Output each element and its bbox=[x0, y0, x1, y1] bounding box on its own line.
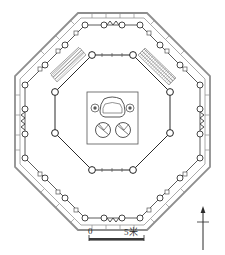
column bbox=[89, 167, 96, 174]
column bbox=[137, 215, 143, 221]
column bbox=[62, 42, 68, 48]
north-arrow-head bbox=[201, 206, 206, 213]
column bbox=[42, 175, 48, 181]
column bbox=[130, 52, 137, 59]
column bbox=[197, 82, 203, 88]
column bbox=[52, 89, 59, 96]
column bbox=[177, 175, 183, 181]
column bbox=[119, 215, 125, 221]
pier bbox=[183, 172, 187, 176]
column bbox=[89, 52, 96, 59]
pier bbox=[74, 31, 78, 35]
pier bbox=[38, 67, 42, 71]
column bbox=[42, 62, 48, 68]
column bbox=[167, 89, 174, 96]
west-railing bbox=[21, 112, 25, 130]
pier bbox=[147, 208, 151, 212]
north-arrow bbox=[197, 206, 209, 250]
pier bbox=[183, 67, 187, 71]
column bbox=[22, 106, 28, 112]
small-column-left-inner bbox=[93, 106, 96, 109]
central-platform bbox=[87, 92, 138, 144]
floor-plan-figure: 0 5米 bbox=[0, 0, 225, 255]
column bbox=[157, 195, 163, 201]
column bbox=[197, 106, 203, 112]
column bbox=[52, 130, 59, 137]
northwest-stair bbox=[50, 47, 86, 82]
floor-plan-drawing bbox=[0, 0, 225, 255]
scale-bar-zero-label: 0 bbox=[88, 226, 93, 236]
column bbox=[119, 22, 125, 28]
column bbox=[137, 22, 143, 28]
east-railing bbox=[200, 112, 204, 130]
pier bbox=[56, 49, 60, 53]
column bbox=[157, 42, 163, 48]
pier bbox=[74, 208, 78, 212]
scale-bar-max-label: 5米 bbox=[124, 225, 138, 238]
column bbox=[101, 22, 107, 28]
column bbox=[22, 82, 28, 88]
scale-bar-body bbox=[89, 238, 144, 241]
pier bbox=[165, 190, 169, 194]
column bbox=[101, 215, 107, 221]
altar-base bbox=[100, 97, 125, 117]
column bbox=[167, 130, 174, 137]
column bbox=[197, 155, 203, 161]
small-column-right-inner bbox=[128, 106, 131, 109]
pier bbox=[147, 31, 151, 35]
column bbox=[22, 155, 28, 161]
column bbox=[22, 131, 28, 137]
column bbox=[82, 22, 88, 28]
column bbox=[130, 167, 137, 174]
column bbox=[62, 195, 68, 201]
pier bbox=[56, 190, 60, 194]
pier bbox=[165, 49, 169, 53]
column bbox=[197, 131, 203, 137]
pier bbox=[38, 172, 42, 176]
south-railing bbox=[107, 218, 119, 222]
column bbox=[82, 215, 88, 221]
column bbox=[177, 62, 183, 68]
north-railing bbox=[107, 21, 119, 25]
